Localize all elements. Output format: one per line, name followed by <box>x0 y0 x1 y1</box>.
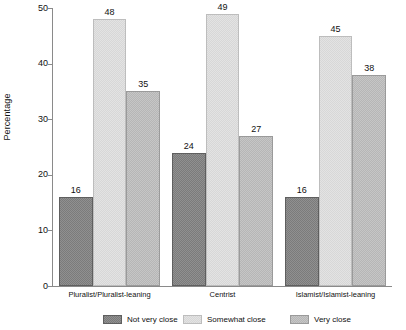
legend-item[interactable]: Very close <box>290 313 351 325</box>
bar-chart: Percentage 01020304050 16483524492716453… <box>0 0 406 330</box>
y-tick-label: 10 <box>26 226 48 235</box>
y-tick-mark <box>48 64 52 65</box>
legend-item[interactable]: Somewhat close <box>183 313 266 325</box>
bar-value-label: 24 <box>172 141 206 151</box>
bar[interactable] <box>93 19 127 286</box>
legend-label: Not very close <box>127 315 178 324</box>
bar[interactable] <box>59 197 93 286</box>
y-tick-mark <box>48 286 52 287</box>
legend-swatch-icon <box>290 315 309 324</box>
bar-value-label: 45 <box>319 24 353 34</box>
bar-value-label: 16 <box>285 185 319 195</box>
y-axis-title: Percentage <box>2 67 16 167</box>
x-axis-line <box>52 286 392 287</box>
bar[interactable] <box>206 14 240 286</box>
bar-value-label: 35 <box>126 79 160 89</box>
y-tick-mark <box>48 175 52 176</box>
y-tick-mark <box>48 230 52 231</box>
plot-area: 164835244927164538 <box>53 8 392 286</box>
bar[interactable] <box>352 75 386 286</box>
bar[interactable] <box>319 36 353 286</box>
bar-value-label: 48 <box>93 7 127 17</box>
bar-value-label: 49 <box>206 2 240 12</box>
bar-value-label: 27 <box>239 124 273 134</box>
legend-label: Very close <box>314 315 351 324</box>
bar[interactable] <box>172 153 206 286</box>
bar-value-label: 16 <box>59 185 93 195</box>
chart-legend: Not very closeSomewhat closeVery close <box>0 313 406 327</box>
bar[interactable] <box>126 91 160 286</box>
legend-item[interactable]: Not very close <box>103 313 178 325</box>
bar[interactable] <box>239 136 273 286</box>
y-tick-label: 40 <box>26 59 48 68</box>
legend-swatch-icon <box>103 315 122 324</box>
y-tick-mark <box>48 8 52 9</box>
y-tick-label: 30 <box>26 115 48 124</box>
bar-value-label: 38 <box>352 63 386 73</box>
bar[interactable] <box>285 197 319 286</box>
legend-label: Somewhat close <box>207 315 266 324</box>
y-tick-mark <box>48 119 52 120</box>
legend-swatch-icon <box>183 315 202 324</box>
x-axis-group-label: Islamist/Islamist-leaning <box>266 290 406 299</box>
y-tick-label: 50 <box>26 4 48 13</box>
y-tick-label: 20 <box>26 170 48 179</box>
